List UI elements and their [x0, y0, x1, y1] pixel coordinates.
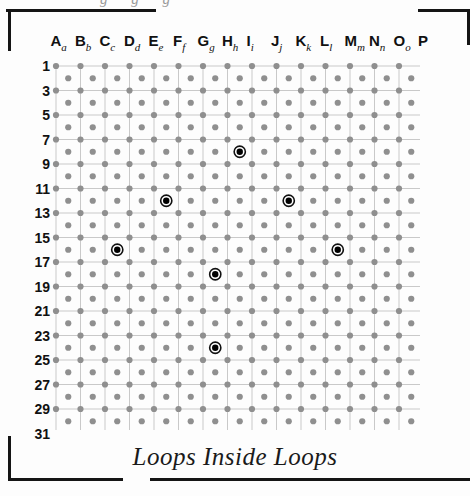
offset-dot [335, 198, 341, 204]
offset-dot [310, 320, 316, 326]
lattice-dot [200, 357, 206, 363]
lattice-dot [224, 87, 230, 93]
lattice-dot [371, 332, 377, 338]
lattice-dot [322, 308, 328, 314]
lattice-dot [53, 259, 59, 265]
offset-dot [114, 198, 120, 204]
offset-dot [65, 75, 71, 81]
lattice-dot [249, 234, 255, 240]
row-header-31: 31 [34, 427, 50, 441]
pin-marker[interactable]: g18 [209, 268, 222, 281]
row-header-19: 19 [34, 280, 50, 294]
offset-dot [139, 124, 145, 130]
pin-marker[interactable]: l16 [331, 243, 344, 256]
pin-marker[interactable]: h8 [233, 145, 246, 158]
offset-dot [139, 418, 145, 424]
lattice-dot [322, 87, 328, 93]
offset-dot [408, 100, 414, 106]
offset-dot [408, 394, 414, 400]
offset-dot [335, 100, 341, 106]
row-header-5: 5 [42, 108, 50, 122]
lattice-dot [396, 381, 402, 387]
lattice-dot [102, 185, 108, 191]
lattice-dot [175, 381, 181, 387]
offset-dot [90, 149, 96, 155]
column-header-letter: G [198, 32, 210, 49]
column-header-letter: D [124, 32, 135, 49]
offset-dot [212, 198, 218, 204]
offset-dot [261, 75, 267, 81]
lattice-dot [298, 283, 304, 289]
offset-dot [188, 124, 194, 130]
offset-dot [65, 124, 71, 130]
offset-dot [90, 418, 96, 424]
lattice-dot [77, 381, 83, 387]
offset-dot [261, 198, 267, 204]
lattice-dot [273, 357, 279, 363]
lattice-dot [126, 87, 132, 93]
offset-dot [408, 271, 414, 277]
offset-dot [163, 271, 169, 277]
offset-dot [237, 173, 243, 179]
lattice-dot [102, 332, 108, 338]
offset-dot [114, 149, 120, 155]
lattice-dot [371, 112, 377, 118]
lattice-dot [224, 210, 230, 216]
lattice-dot [102, 112, 108, 118]
lattice-dot [175, 161, 181, 167]
column-header-j: Jj [271, 33, 282, 48]
column-header-p: P [418, 33, 428, 48]
offset-dot [188, 247, 194, 253]
offset-dot [384, 296, 390, 302]
offset-dot [163, 296, 169, 302]
lattice-dot [347, 332, 353, 338]
offset-dot [114, 296, 120, 302]
lattice-dot [53, 136, 59, 142]
offset-dot [286, 271, 292, 277]
lattice-dot [53, 210, 59, 216]
lattice-dot [126, 112, 132, 118]
lattice-dot [371, 234, 377, 240]
column-header-letter: P [418, 32, 428, 49]
offset-dot [237, 124, 243, 130]
lattice-dot [347, 210, 353, 216]
offset-dot [114, 173, 120, 179]
offset-dot [163, 75, 169, 81]
column-header-letter: A [51, 32, 62, 49]
offset-dot [163, 320, 169, 326]
lattice-dot [200, 234, 206, 240]
lattice-dot [322, 234, 328, 240]
lattice-dot [347, 381, 353, 387]
column-header-sub-o: o [405, 41, 411, 53]
lattice-dot [77, 210, 83, 216]
lattice-dot [347, 259, 353, 265]
lattice-dot [126, 283, 132, 289]
row-header-29: 29 [34, 402, 50, 416]
pin-marker[interactable]: j12 [282, 194, 295, 207]
offset-dot [408, 198, 414, 204]
lattice-dot [273, 112, 279, 118]
offset-dot [212, 296, 218, 302]
offset-dot [90, 320, 96, 326]
offset-dot [335, 271, 341, 277]
pin-marker[interactable]: e12 [160, 194, 173, 207]
lattice-dot [175, 136, 181, 142]
offset-dot [237, 247, 243, 253]
pin-marker[interactable]: g24 [209, 341, 222, 354]
pin-marker[interactable]: c16 [111, 243, 124, 256]
lattice-dot [126, 136, 132, 142]
offset-dot [65, 173, 71, 179]
lattice-dot [249, 185, 255, 191]
offset-dot [65, 198, 71, 204]
lattice-dot [249, 406, 255, 412]
offset-dot [261, 149, 267, 155]
offset-dot [114, 100, 120, 106]
column-header-sub-e: e [159, 41, 164, 53]
offset-dot [163, 418, 169, 424]
offset-dot [408, 222, 414, 228]
lattice-dot [371, 259, 377, 265]
row-header-21: 21 [34, 304, 50, 318]
row-header-7: 7 [42, 133, 50, 147]
lattice-dot [224, 112, 230, 118]
offset-dot [261, 320, 267, 326]
